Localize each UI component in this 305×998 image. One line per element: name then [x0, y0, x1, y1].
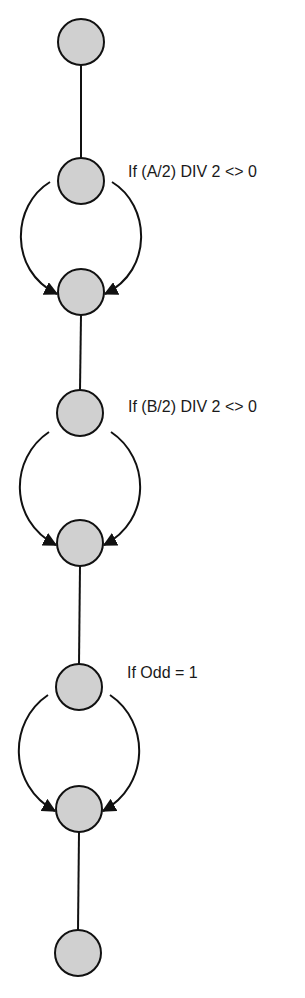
edge-n4-n5-right-arrow	[104, 432, 140, 545]
node-n5	[57, 520, 103, 566]
condition-label-odd: If Odd = 1	[127, 664, 198, 682]
node-n4	[57, 390, 103, 436]
edge-n7-n8	[78, 832, 79, 930]
node-n3	[58, 269, 104, 315]
node-n2	[58, 158, 104, 204]
edge-n4-n5-left-arrow	[20, 432, 56, 545]
edge-n3-n4	[80, 315, 81, 390]
edge-n6-n7-left-arrow	[19, 695, 55, 811]
node-n6	[56, 664, 102, 710]
control-flow-graph	[0, 0, 305, 998]
edge-n5-n6	[79, 566, 80, 664]
edge-n2-n3-left-arrow	[21, 182, 57, 294]
node-n7	[56, 786, 102, 832]
node-n1	[58, 19, 104, 65]
condition-label-b: If (B/2) DIV 2 <> 0	[128, 398, 257, 416]
edge-n6-n7-right-arrow	[103, 695, 139, 811]
edge-n2-n3-right-arrow	[105, 182, 141, 294]
node-n8	[55, 930, 101, 976]
condition-label-a: If (A/2) DIV 2 <> 0	[128, 163, 257, 181]
